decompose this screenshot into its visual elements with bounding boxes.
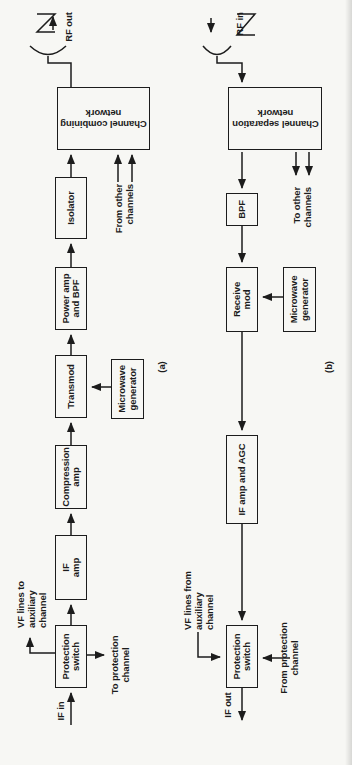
box-channel-combining-network: Channel combining network bbox=[57, 87, 150, 150]
box-tx-if-amp: IF amp bbox=[55, 535, 87, 600]
if-in-label: IF in bbox=[55, 690, 66, 732]
from-protection-channel-label: From protection channel bbox=[278, 611, 300, 705]
channel-combining-network-label: Channel combining network bbox=[60, 108, 146, 129]
block-diagram-canvas: Protection switch IF amp Compression amp… bbox=[0, 0, 352, 765]
rx-microwave-generator-label: Microwave generator bbox=[289, 276, 310, 324]
tx-protection-switch-label: Protection switch bbox=[61, 634, 82, 680]
caption-b: (b) bbox=[323, 352, 334, 382]
if-amp-agc-label: IF amp and AGC bbox=[237, 443, 248, 515]
receive-mod-label: Receive mod bbox=[232, 282, 253, 317]
rf-out-label: RF out bbox=[63, 1, 74, 53]
page-edge-shadow bbox=[345, 0, 352, 765]
tx-microwave-generator-label: Microwave generator bbox=[117, 365, 138, 413]
rx-antenna-dish-icon bbox=[203, 46, 231, 55]
box-tx-protection-switch: Protection switch bbox=[55, 625, 87, 688]
to-protection-channel-label: To protection channel bbox=[109, 620, 131, 710]
power-amp-bpf-label: Power amp and BPF bbox=[61, 274, 82, 324]
box-channel-separation-network: Channel separation network bbox=[228, 87, 322, 150]
rx-protection-switch-label: Protection switch bbox=[232, 634, 253, 680]
if-out-label: IF out bbox=[222, 685, 233, 725]
isolator-label: Isolator bbox=[66, 191, 77, 225]
box-receive-mod: Receive mod bbox=[226, 267, 258, 332]
tx-if-amp-label: IF amp bbox=[61, 558, 82, 577]
compression-amp-label: Compression amp bbox=[61, 447, 82, 507]
from-other-channels-label: From other channels bbox=[113, 184, 135, 262]
box-rx-microwave-generator: Microwave generator bbox=[283, 267, 316, 332]
box-compression-amp: Compression amp bbox=[55, 445, 87, 509]
channel-separation-network-label: Channel separation network bbox=[232, 108, 318, 129]
box-rx-protection-switch: Protection switch bbox=[226, 625, 258, 688]
box-if-amp-agc: IF amp and AGC bbox=[226, 435, 258, 524]
tx-antenna-dish-icon bbox=[30, 46, 66, 55]
to-other-channels-label: To other channels bbox=[291, 187, 313, 265]
feedline-tx-antenna bbox=[48, 56, 71, 87]
scanned-figure-page: { "colors": { "ink": "#1c1c1c", "paper":… bbox=[0, 0, 352, 765]
box-tx-microwave-generator: Microwave generator bbox=[111, 359, 144, 419]
bpf-label: BPF bbox=[237, 200, 248, 219]
vf-lines-to-aux-label: VF lines to auxiliary channel bbox=[15, 558, 48, 628]
transmod-label: Transmod bbox=[66, 364, 77, 409]
box-isolator: Isolator bbox=[55, 177, 87, 239]
arrow-vf-lines-in bbox=[198, 632, 220, 657]
box-bpf: BPF bbox=[226, 193, 258, 226]
box-transmod: Transmod bbox=[55, 355, 87, 418]
vf-lines-from-aux-label: VF lines from auxiliary channel bbox=[182, 555, 215, 630]
feedline-rx-antenna bbox=[217, 56, 242, 82]
rf-in-label: RF in bbox=[234, 1, 245, 47]
caption-a: (a) bbox=[156, 352, 167, 382]
box-power-amp-bpf: Power amp and BPF bbox=[55, 267, 87, 330]
arrow-vf-lines-out bbox=[30, 638, 55, 653]
